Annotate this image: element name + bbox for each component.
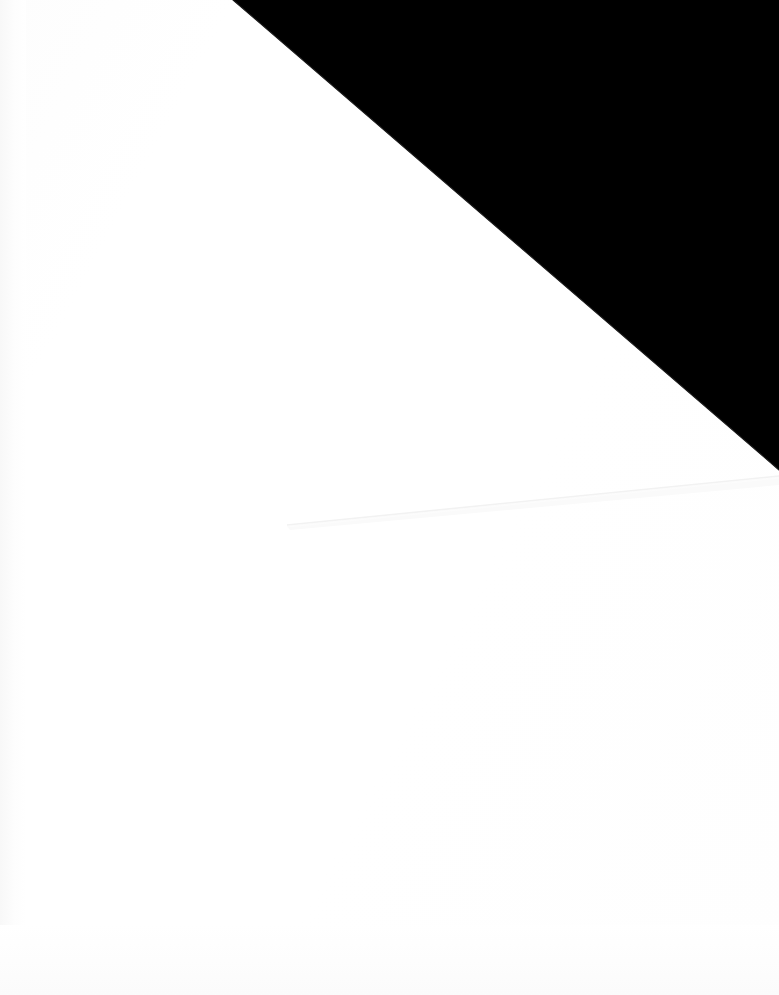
- bottom-edge-shading: [0, 925, 779, 995]
- left-edge-shading: [0, 0, 26, 995]
- page-canvas: [0, 0, 779, 995]
- page-surface: [0, 0, 779, 995]
